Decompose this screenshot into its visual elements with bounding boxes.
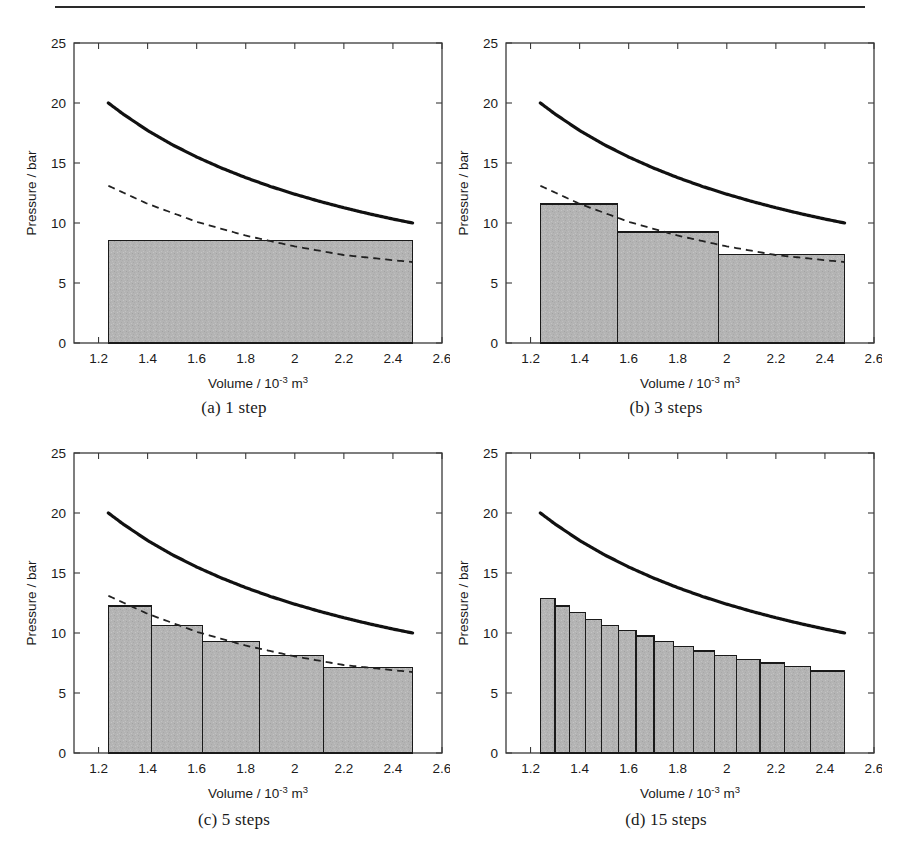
- x-tick-label: 1.2: [521, 761, 540, 776]
- x-tick-label: 2.4: [816, 761, 835, 776]
- x-tick-label: 2: [291, 761, 299, 776]
- x-tick-label: 1.2: [89, 351, 108, 366]
- step-bar: [654, 641, 673, 753]
- y-tick-label: 10: [51, 626, 66, 641]
- step-bar: [152, 625, 203, 753]
- y-axis-title: Pressure / bar: [456, 150, 471, 235]
- chart-c: 1.21.41.61.822.22.42.60510152025Volume /…: [18, 440, 450, 808]
- x-tick-label: 2.2: [334, 351, 353, 366]
- step-bar: [540, 598, 555, 753]
- y-tick-label: 20: [51, 506, 66, 521]
- panel-a-caption: (a) 1 step: [18, 398, 450, 418]
- x-tick-label: 2.4: [384, 761, 403, 776]
- y-tick-label: 20: [483, 96, 498, 111]
- y-tick-label: 10: [483, 216, 498, 231]
- y-tick-label: 15: [483, 566, 498, 581]
- x-tick-label: 2.2: [766, 351, 785, 366]
- x-tick-label: 1.6: [619, 351, 638, 366]
- step-bar: [260, 655, 324, 753]
- panel-c-caption: (c) 5 steps: [18, 810, 450, 830]
- x-tick-label: 1.4: [138, 761, 157, 776]
- x-tick-label: 2.2: [766, 761, 785, 776]
- x-axis-title: Volume / 10-3 m3: [640, 374, 740, 391]
- step-bars: [108, 240, 412, 343]
- y-tick-label: 20: [483, 506, 498, 521]
- step-bar: [785, 667, 811, 753]
- chart-b: 1.21.41.61.822.22.42.60510152025Volume /…: [450, 30, 882, 398]
- step-bar: [693, 651, 714, 753]
- step-bar: [108, 606, 151, 753]
- y-tick-label: 5: [490, 686, 498, 701]
- x-axis-title: Volume / 10-3 m3: [208, 784, 308, 801]
- x-tick-label: 1.6: [187, 761, 206, 776]
- step-bar: [618, 631, 636, 753]
- step-bar: [636, 636, 654, 753]
- x-tick-label: 2: [291, 351, 299, 366]
- chart-a: 1.21.41.61.822.22.42.60510152025Volume /…: [18, 30, 450, 398]
- step-bar: [570, 613, 586, 753]
- x-tick-label: 1.8: [668, 351, 687, 366]
- y-tick-label: 10: [51, 216, 66, 231]
- chart-d: 1.21.41.61.822.22.42.60510152025Volume /…: [450, 440, 882, 808]
- x-tick-label: 2: [723, 761, 731, 776]
- y-tick-label: 25: [51, 446, 66, 461]
- y-tick-label: 25: [483, 36, 498, 51]
- step-bar: [540, 204, 617, 343]
- x-axis-title: Volume / 10-3 m3: [640, 784, 740, 801]
- y-axis-title: Pressure / bar: [24, 560, 39, 645]
- y-tick-label: 15: [51, 156, 66, 171]
- step-bar: [719, 254, 845, 343]
- step-bar: [673, 646, 693, 753]
- y-tick-label: 5: [58, 686, 66, 701]
- x-tick-label: 2.2: [334, 761, 353, 776]
- step-bar: [715, 655, 737, 753]
- x-tick-label: 1.2: [521, 351, 540, 366]
- step-bar: [810, 671, 844, 753]
- x-tick-label: 1.2: [89, 761, 108, 776]
- step-bar: [202, 641, 259, 753]
- panel-a-1-step: 1.21.41.61.822.22.42.60510152025Volume /…: [18, 30, 450, 425]
- y-tick-label: 25: [51, 36, 66, 51]
- x-tick-label: 2.6: [433, 761, 450, 776]
- x-tick-label: 1.6: [619, 761, 638, 776]
- panel-b-caption: (b) 3 steps: [450, 398, 882, 418]
- x-tick-label: 1.4: [570, 761, 589, 776]
- step-bar: [323, 667, 412, 753]
- x-tick-label: 2.4: [384, 351, 403, 366]
- y-tick-label: 20: [51, 96, 66, 111]
- step-bar: [760, 663, 785, 753]
- x-tick-label: 2.6: [865, 761, 882, 776]
- panel-d-15-steps: 1.21.41.61.822.22.42.60510152025Volume /…: [450, 440, 882, 840]
- y-tick-label: 10: [483, 626, 498, 641]
- x-tick-label: 1.8: [668, 761, 687, 776]
- step-bar: [617, 232, 718, 343]
- y-tick-label: 15: [483, 156, 498, 171]
- panel-d-caption: (d) 15 steps: [450, 810, 882, 830]
- step-bar: [585, 619, 601, 753]
- x-tick-label: 2.6: [865, 351, 882, 366]
- x-tick-label: 1.8: [236, 761, 255, 776]
- step-bar: [737, 659, 761, 753]
- step-bar: [555, 606, 570, 753]
- x-tick-label: 2.4: [816, 351, 835, 366]
- y-tick-label: 0: [58, 336, 66, 351]
- y-axis-title: Pressure / bar: [24, 150, 39, 235]
- y-tick-label: 5: [58, 276, 66, 291]
- x-tick-label: 1.6: [187, 351, 206, 366]
- panel-b-3-steps: 1.21.41.61.822.22.42.60510152025Volume /…: [450, 30, 882, 425]
- top-horizontal-rule: [55, 6, 865, 8]
- x-tick-label: 2: [723, 351, 731, 366]
- step-bar: [602, 625, 619, 753]
- y-tick-label: 0: [490, 336, 498, 351]
- x-axis-title: Volume / 10-3 m3: [208, 374, 308, 391]
- y-tick-label: 0: [58, 746, 66, 761]
- y-tick-label: 15: [51, 566, 66, 581]
- y-axis-title: Pressure / bar: [456, 560, 471, 645]
- x-tick-label: 1.4: [138, 351, 157, 366]
- step-bar: [108, 240, 412, 343]
- y-tick-label: 5: [490, 276, 498, 291]
- x-tick-label: 2.6: [433, 351, 450, 366]
- x-tick-label: 1.4: [570, 351, 589, 366]
- y-tick-label: 25: [483, 446, 498, 461]
- x-tick-label: 1.8: [236, 351, 255, 366]
